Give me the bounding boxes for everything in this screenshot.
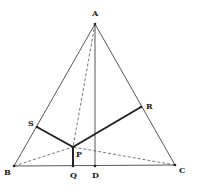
point-r [140, 106, 143, 109]
label-b: B [4, 167, 11, 177]
perpendicular-ps [37, 127, 73, 147]
point-b [13, 165, 16, 168]
label-q: Q [70, 170, 77, 180]
point-d [94, 165, 97, 168]
dashed-cp [73, 147, 175, 165]
label-c: C [179, 165, 185, 175]
point-a [94, 23, 97, 26]
label-s: S [28, 118, 34, 128]
point-p [72, 146, 75, 149]
label-a: A [91, 8, 99, 18]
point-s [36, 126, 39, 129]
perpendicular-pr [73, 107, 141, 147]
triangle-diagram: A B C D Q P S R [0, 0, 197, 192]
side-ac [95, 24, 175, 165]
side-ab [14, 24, 95, 166]
label-r: R [146, 101, 153, 111]
point-q [72, 165, 75, 168]
label-p: P [76, 149, 82, 159]
point-c [174, 164, 177, 167]
label-d: D [92, 170, 99, 180]
